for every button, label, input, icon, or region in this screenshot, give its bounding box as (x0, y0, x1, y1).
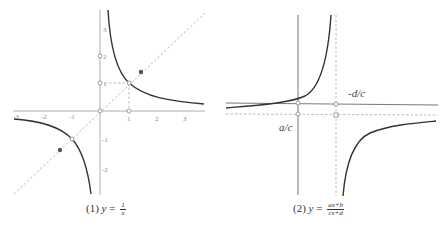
hyperbola-branch-positive (108, 10, 204, 104)
diagram-canvas: -3 -2 -1 1 2 3 3 2 1 -1 -2 -d/c a/c (0, 0, 445, 230)
label-a-over-c: a/c (279, 121, 293, 133)
point-asymptote-intersection (334, 113, 338, 117)
caption-2-eq: = (313, 202, 325, 214)
caption-2-prefix: (2) (293, 202, 309, 214)
curve-branch-left (226, 15, 331, 108)
point-y-intercept (296, 101, 300, 105)
point-y-1 (98, 81, 102, 85)
x-tick-3: 3 (183, 115, 187, 123)
panel-2-linear-fractional-graph: -d/c a/c (226, 15, 438, 196)
curve-branch-right (343, 121, 436, 196)
x-tick-neg2: -2 (41, 113, 47, 121)
x-tick-1: 1 (127, 115, 131, 123)
point-a-over-c (296, 112, 300, 116)
point-axis-asymptote (334, 102, 338, 106)
point-1-1 (127, 81, 131, 85)
x-tick-neg1: -1 (69, 113, 75, 121)
point-x-1 (127, 109, 131, 113)
x-tick-neg3: -3 (13, 113, 19, 121)
caption-1-eq: = (106, 202, 118, 214)
panel-1-reciprocal-graph: -3 -2 -1 1 2 3 3 2 1 -1 -2 (13, 10, 205, 195)
caption-1-denominator: x (121, 210, 124, 217)
y-tick-neg1: -1 (102, 136, 108, 144)
point-neg1-neg1 (70, 137, 74, 141)
point-y-2 (98, 54, 102, 58)
caption-1-fraction: 1x (120, 202, 126, 217)
y-tick-3: 3 (103, 26, 107, 34)
label-neg-d-over-c: -d/c (348, 87, 365, 99)
caption-1-prefix: (1) (86, 202, 102, 214)
caption-panel-1: (1) y = 1x (86, 202, 126, 217)
focus-point-lower (58, 148, 62, 152)
caption-2-fraction: ax+bcx+d (327, 202, 344, 217)
caption-2-denominator: cx+d (328, 210, 342, 217)
caption-panel-2: (2) y = ax+bcx+d (293, 202, 344, 217)
line-y-equals-x (14, 13, 205, 194)
y-tick-neg2: -2 (102, 166, 108, 174)
x-tick-2: 2 (155, 115, 159, 123)
hyperbola-branch-negative (14, 119, 91, 194)
y-tick-2: 2 (103, 53, 107, 61)
point-origin (98, 109, 102, 113)
focus-point-upper (139, 70, 143, 74)
y-tick-1: 1 (103, 80, 107, 88)
horizontal-asymptote (226, 114, 438, 115)
